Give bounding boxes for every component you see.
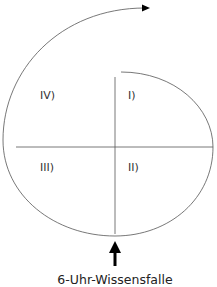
quadrant-label-iv: IV) — [40, 90, 55, 101]
quadrant-label-i: I) — [128, 90, 136, 101]
spiral-quadrant-diagram — [0, 0, 217, 287]
pointer-arrow-up-icon — [109, 241, 121, 253]
spiral-arrowhead-icon — [142, 5, 150, 12]
diagram-caption: 6-Uhr-Wissensfalle — [0, 272, 217, 287]
quadrant-label-ii: II) — [128, 162, 139, 173]
quadrant-label-iii: III) — [40, 162, 54, 173]
spiral-curve — [3, 8, 213, 236]
